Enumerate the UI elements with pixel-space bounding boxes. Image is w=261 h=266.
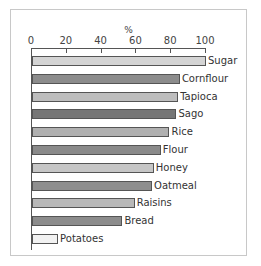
bar-label: Oatmeal: [154, 180, 197, 191]
x-axis-line: [31, 48, 205, 49]
bar-label: Cornflour: [182, 73, 228, 84]
bar-raisins: [32, 198, 135, 208]
bar-rice: [32, 127, 169, 137]
bar-label: Flour: [163, 144, 188, 155]
bar-label: Honey: [156, 162, 188, 173]
bar-label: Bread: [124, 215, 153, 226]
bar-flour: [32, 145, 161, 155]
axis-unit-label: %: [11, 25, 246, 35]
x-tick-label: 0: [28, 35, 34, 46]
x-tick-mark: [205, 48, 206, 53]
bar-tapioca: [32, 92, 178, 102]
chart-frame: % 020406080100 SugarCornflourTapiocaSago…: [10, 9, 247, 256]
bar-label: Rice: [171, 126, 192, 137]
x-tick-label: 100: [195, 35, 214, 46]
bar-label: Sago: [178, 108, 203, 119]
bar-sugar: [32, 56, 206, 66]
bar-honey: [32, 163, 154, 173]
x-tick-label: 20: [59, 35, 72, 46]
bar-label: Raisins: [137, 197, 172, 208]
x-tick-label: 40: [94, 35, 107, 46]
bar-label: Sugar: [208, 55, 237, 66]
x-tick-label: 80: [164, 35, 177, 46]
x-tick-label: 60: [129, 35, 142, 46]
bar-oatmeal: [32, 181, 152, 191]
bar-label: Tapioca: [180, 91, 217, 102]
bar-potatoes: [32, 234, 58, 244]
bar-sago: [32, 109, 176, 119]
bar-cornflour: [32, 74, 180, 84]
bar-bread: [32, 216, 122, 226]
bar-label: Potatoes: [60, 233, 103, 244]
